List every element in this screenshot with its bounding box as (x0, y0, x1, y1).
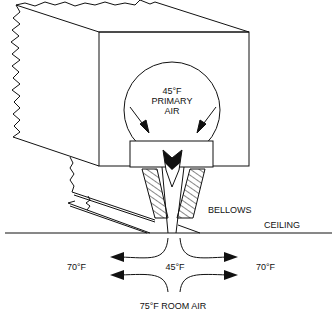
left-temp-label: 70°F (67, 262, 86, 272)
primary-label-line1: PRIMARY (152, 96, 193, 106)
center-temp-label: 45°F (165, 262, 184, 272)
room-air-label: 75°F ROOM AIR (140, 301, 207, 311)
primary-temp-label: 45°F (162, 86, 181, 96)
primary-label-line2: AIR (164, 106, 179, 116)
diffuser-diagram: 45°F PRIMARY AIR BELLOWS CEILING 70°F 45… (0, 0, 332, 317)
bellows-label: BELLOWS (208, 205, 252, 215)
right-temp-label: 70°F (256, 262, 275, 272)
ceiling-label: CEILING (264, 220, 300, 230)
